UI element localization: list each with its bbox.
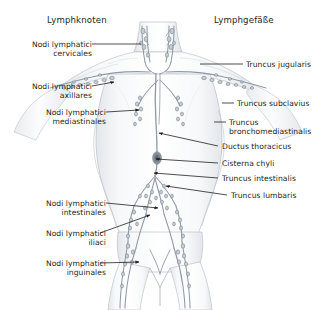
- label-cervicales-line1: Nodi lymphatici: [32, 40, 92, 49]
- label-truncus-lumbaris: Truncus lumbaris: [231, 191, 296, 200]
- label-iliaci: Nodi lymphaticiiliaci: [46, 229, 106, 247]
- label-truncus-intestinalis: Truncus intestinalis: [222, 174, 296, 183]
- label-truncus-bronchomediastinalis-line2: bronchomediastinalis: [229, 127, 311, 136]
- label-mediastinales-line2: mediastinales: [46, 117, 106, 126]
- label-inguinales: Nodi lymphaticiinguinales: [46, 259, 106, 277]
- label-intestinales-line2: intestinales: [46, 208, 106, 217]
- label-truncus-lumbaris-line1: Truncus lumbaris: [231, 191, 296, 200]
- label-inguinales-line1: Nodi lymphatici: [46, 259, 106, 268]
- label-intestinales: Nodi lymphaticiintestinales: [46, 199, 106, 217]
- label-truncus-subclavius: Truncus subclavius: [237, 99, 309, 108]
- label-intestinales-line1: Nodi lymphatici: [46, 199, 106, 208]
- label-iliaci-line2: iliaci: [46, 238, 106, 247]
- label-axillares: Nodi lymphaticiaxillares: [32, 82, 92, 100]
- header-lymphgefaesse: Lymphgefäße: [214, 15, 274, 25]
- label-truncus-jugularis-line1: Truncus jugularis: [246, 60, 311, 69]
- label-axillares-line1: Nodi lymphatici: [32, 82, 92, 91]
- label-ductus-thoracicus: Ductus thoracicus: [222, 142, 291, 151]
- label-truncus-subclavius-line1: Truncus subclavius: [237, 99, 309, 108]
- cisterna-chyli-marker: [153, 152, 162, 164]
- lymphatic-system-figure: Lymphknoten Lymphgefäße Nodi lymphaticic…: [0, 0, 318, 310]
- label-ductus-thoracicus-line1: Ductus thoracicus: [222, 142, 291, 151]
- label-cervicales: Nodi lymphaticicervicales: [32, 40, 92, 58]
- header-lymphknoten: Lymphknoten: [47, 15, 107, 25]
- label-mediastinales-line1: Nodi lymphatici: [46, 108, 106, 117]
- label-cervicales-line2: cervicales: [32, 49, 92, 58]
- label-truncus-bronchomediastinalis-line1: Truncus: [229, 118, 311, 127]
- label-mediastinales: Nodi lymphaticimediastinales: [46, 108, 106, 126]
- label-iliaci-line1: Nodi lymphatici: [46, 229, 106, 238]
- label-truncus-intestinalis-line1: Truncus intestinalis: [222, 174, 296, 183]
- label-cisterna-chyli: Cisterna chyli: [222, 159, 274, 168]
- label-inguinales-line2: inguinales: [46, 268, 106, 277]
- label-cisterna-chyli-line1: Cisterna chyli: [222, 159, 274, 168]
- label-axillares-line2: axillares: [32, 91, 92, 100]
- label-truncus-jugularis: Truncus jugularis: [246, 60, 311, 69]
- label-truncus-bronchomediastinalis: Truncusbronchomediastinalis: [229, 118, 311, 136]
